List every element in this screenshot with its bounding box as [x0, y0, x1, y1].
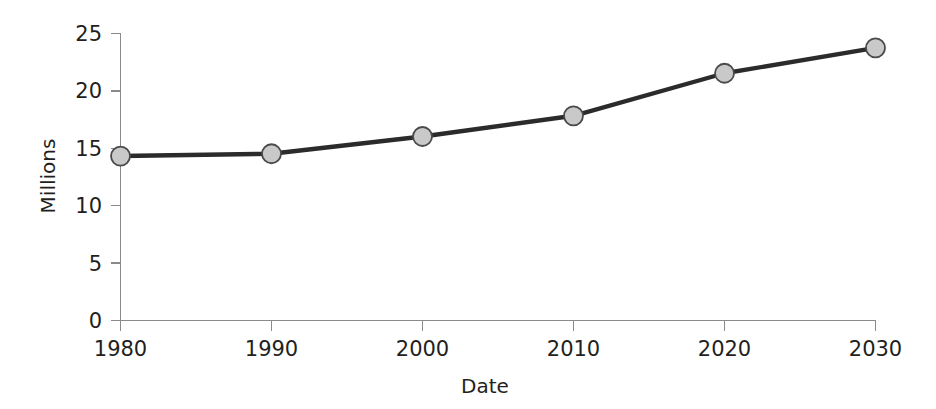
y-tick-label-20: 20 — [75, 79, 102, 103]
data-point-2030 — [866, 38, 885, 57]
chart-canvas: 25 20 15 10 5 0 1980 1990 2000 2010 2020… — [0, 0, 936, 409]
series-markers — [111, 38, 885, 165]
data-point-2000 — [413, 127, 432, 146]
x-tick-label-2020: 2020 — [698, 337, 751, 361]
x-axis-ticks — [121, 321, 876, 332]
x-tick-label-2000: 2000 — [396, 337, 449, 361]
data-point-2010 — [564, 106, 583, 125]
x-tick-label-1980: 1980 — [94, 337, 147, 361]
y-axis-title: Millions — [36, 139, 60, 214]
y-tick-label-15: 15 — [75, 137, 102, 161]
line-chart: 25 20 15 10 5 0 1980 1990 2000 2010 2020… — [0, 0, 936, 409]
x-tick-label-1990: 1990 — [245, 337, 298, 361]
data-series-millions — [111, 38, 885, 165]
y-tick-label-0: 0 — [89, 309, 102, 333]
x-tick-label-2010: 2010 — [547, 337, 600, 361]
y-axis-ticks — [111, 34, 121, 321]
y-tick-label-5: 5 — [89, 252, 102, 276]
y-tick-label-25: 25 — [75, 22, 102, 46]
y-tick-label-10: 10 — [75, 194, 102, 218]
y-axis-tick-labels: 25 20 15 10 5 0 — [75, 22, 102, 333]
x-axis-title: Date — [461, 374, 509, 398]
x-axis-tick-labels: 1980 1990 2000 2010 2020 2030 — [94, 337, 902, 361]
series-line — [121, 48, 876, 156]
data-point-1980 — [111, 147, 130, 166]
data-point-1990 — [262, 144, 281, 163]
data-point-2020 — [715, 64, 734, 83]
x-tick-label-2030: 2030 — [849, 337, 902, 361]
